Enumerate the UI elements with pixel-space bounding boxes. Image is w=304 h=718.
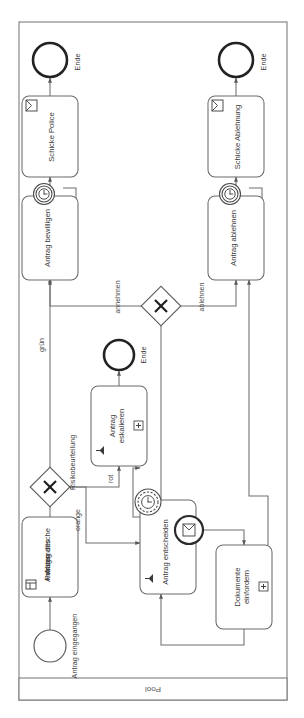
task-label-line3: Antrags <box>43 556 52 582</box>
end-event-circle[interactable] <box>104 340 134 370</box>
task-label: Schicke Ablehnung <box>233 105 242 170</box>
task-label: Antrag ablehnen <box>229 210 238 266</box>
bpmn-diagram-canvas: Pool <box>0 0 304 718</box>
task-antrag-bewilligen[interactable]: Antrag bewilligen <box>22 196 78 280</box>
start-event-circle[interactable] <box>34 630 66 662</box>
task-automatische-pruefung[interactable]: Automatische Prüfung des Antrags <box>22 517 78 597</box>
boundary-event-timer-entscheiden[interactable] <box>135 489 161 515</box>
flow-label-ablehnen: ablehnen <box>198 282 205 311</box>
task-label: Schicke Police <box>47 112 56 161</box>
plus-marker <box>259 582 268 591</box>
task-label-line1: Dokumente <box>233 568 242 607</box>
end-event-label: Ende <box>259 54 268 71</box>
task-label: Antrag bewilligen <box>43 209 52 267</box>
start-event-label-line1: Antrag eingegangen <box>70 614 79 679</box>
task-label: Antrag entscheiden <box>161 519 170 584</box>
flow-label-gruen: grün <box>38 338 46 352</box>
boundary-event-timer-ablehnen[interactable] <box>220 184 241 205</box>
task-schicke-ablehnung[interactable]: Schicke Ablehnung <box>208 96 264 177</box>
end-event-circle[interactable] <box>219 43 253 77</box>
end-event-label: Ende <box>73 54 82 71</box>
task-antrag-ablehnen[interactable]: Antrag ablehnen <box>208 196 264 280</box>
task-label-line2: eskalieren <box>117 409 126 444</box>
plus-marker <box>134 421 143 430</box>
task-schicke-police[interactable]: Schicke Police <box>22 96 78 177</box>
end-event-circle[interactable] <box>33 43 67 77</box>
flow-label-rot: rot <box>107 475 114 483</box>
task-antrag-eskalieren[interactable]: Antrag eskalieren <box>91 386 147 466</box>
task-dokumente-einfordern[interactable]: Dokumente einfordern <box>216 545 272 629</box>
flow-label-orange: orange <box>74 509 82 531</box>
flow-label-annehmen: annehmen <box>114 280 121 313</box>
pool-label: Pool <box>145 685 161 694</box>
task-label-line1: Antrag <box>108 415 117 437</box>
end-event-label: Ende <box>139 347 148 364</box>
boundary-event-message-entscheiden[interactable] <box>175 516 203 544</box>
task-label-line2: einfordern <box>242 570 251 604</box>
boundary-event-timer-bewilligen[interactable] <box>34 184 55 205</box>
gateway-label: Risikobeurteilung <box>68 435 77 490</box>
